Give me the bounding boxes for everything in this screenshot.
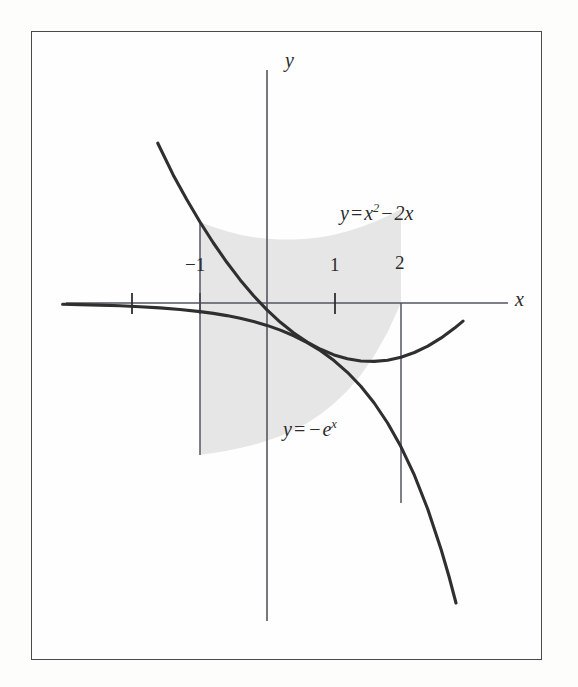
exp-label-e: e xyxy=(322,418,331,440)
exp-label-minus: − xyxy=(307,418,322,440)
y-axis-label: y xyxy=(285,50,294,70)
parabola-label-y: y xyxy=(340,202,349,224)
parabola-label-equals: = xyxy=(349,202,364,224)
parabola-label-x: x xyxy=(364,202,373,224)
parabola-label-twox: 2x xyxy=(395,202,414,224)
exp-label-y: y xyxy=(283,418,292,440)
parabola-label-minus: − xyxy=(379,202,394,224)
curve-label-exponential: y=−ex xyxy=(283,419,337,439)
tick-label-neg1: −1 xyxy=(185,255,205,274)
exp-label-exponent: x xyxy=(331,417,337,431)
plot-canvas xyxy=(0,0,578,687)
exp-label-equals: = xyxy=(292,418,307,440)
tick-label-one: 1 xyxy=(330,255,340,274)
figure-root: y=x2−2x y=−ex x y −1 1 2 xyxy=(0,0,578,687)
x-axis-label: x xyxy=(515,289,524,309)
curve-label-parabola: y=x2−2x xyxy=(340,203,413,223)
tick-label-two: 2 xyxy=(395,253,405,272)
